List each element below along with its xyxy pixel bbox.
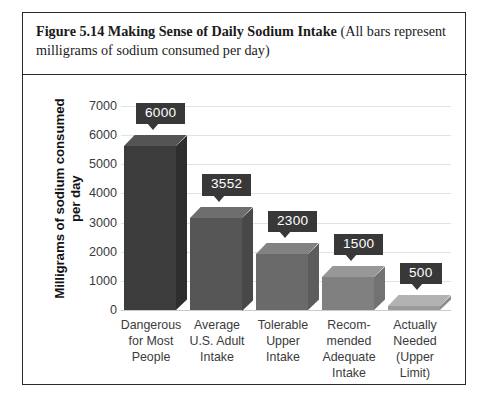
- x-axis-label-line: Average: [184, 318, 250, 334]
- x-axis-label-line: Needed: [382, 334, 448, 350]
- bar-value-label: 3552: [202, 174, 251, 195]
- x-axis-label-line: U.S. Adult: [184, 334, 250, 350]
- bar-value-label: 1500: [334, 234, 383, 255]
- bar[interactable]: [256, 243, 308, 310]
- bar-front-face: [190, 218, 242, 311]
- x-axis-label-line: Limit): [382, 366, 448, 382]
- callout-tail: [213, 195, 225, 202]
- x-axis-label-line: Intake: [250, 350, 316, 366]
- x-axis-label-line: People: [118, 350, 184, 366]
- x-axis-label-line: Dangerous: [118, 318, 184, 334]
- x-axis-label-line: Recom-: [316, 318, 382, 334]
- x-axis-label-line: Adequate: [316, 350, 382, 366]
- x-axis-category-labels: Dangerousfor MostPeopleAverageU.S. Adult…: [121, 318, 461, 384]
- bar-front-face: [322, 277, 374, 310]
- x-axis-label-line: (Upper: [382, 350, 448, 366]
- x-axis-label-line: Actually: [382, 318, 448, 334]
- x-axis-label: TolerableUpperIntake: [250, 318, 316, 366]
- bar-value-label: 2300: [268, 211, 317, 232]
- bar-top-face: [256, 243, 319, 254]
- callout-tail: [279, 231, 291, 238]
- bar-side-face: [308, 243, 319, 310]
- bar-side-face: [176, 136, 187, 310]
- bar[interactable]: [124, 135, 176, 310]
- figure-caption-text: Figure 5.14 Making Sense of Daily Sodium…: [36, 22, 454, 59]
- bar-front-face: [124, 146, 176, 310]
- bar-top-face: [190, 207, 253, 218]
- figure-caption-title: Figure 5.14 Making Sense of Daily Sodium…: [36, 23, 337, 39]
- bar[interactable]: [322, 266, 374, 310]
- x-axis-label-line: Upper: [250, 334, 316, 350]
- callout-tail: [411, 283, 423, 290]
- bar-top-face: [322, 266, 385, 277]
- callout-tail: [345, 254, 357, 261]
- figure-frame: Figure 5.14 Making Sense of Daily Sodium…: [22, 12, 466, 385]
- bar-top-face: [124, 135, 187, 146]
- chart-plot-area: Milligrams of sodium consumed per day 70…: [23, 75, 467, 384]
- bar-side-face: [242, 207, 253, 310]
- bar[interactable]: [388, 295, 440, 310]
- x-axis-label: Dangerousfor MostPeople: [118, 318, 184, 366]
- bar-value-label: 6000: [136, 103, 185, 124]
- figure-caption: Figure 5.14 Making Sense of Daily Sodium…: [23, 13, 467, 75]
- x-axis-label: AverageU.S. AdultIntake: [184, 318, 250, 366]
- x-axis-label: Recom-mendedAdequateIntake: [316, 318, 382, 382]
- bar-value-label: 500: [400, 263, 442, 284]
- callout-tail: [147, 123, 159, 130]
- x-axis-label: ActuallyNeeded(UpperLimit): [382, 318, 448, 382]
- bar[interactable]: [190, 207, 242, 311]
- x-axis-label-line: Intake: [184, 350, 250, 366]
- x-axis-label-line: for Most: [118, 334, 184, 350]
- x-axis-label-line: Intake: [316, 366, 382, 382]
- x-axis-label-line: mended: [316, 334, 382, 350]
- x-axis-label-line: Tolerable: [250, 318, 316, 334]
- bar-front-face: [388, 306, 440, 310]
- bar-front-face: [256, 254, 308, 310]
